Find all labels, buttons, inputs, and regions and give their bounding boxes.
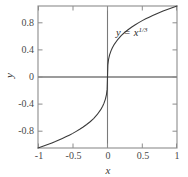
x-tick-label-2: 0	[99, 151, 117, 161]
x-tick-label-4: 1	[169, 151, 185, 161]
x-axis-title: x	[99, 165, 117, 176]
annotation-lhs: y	[116, 27, 121, 38]
annotation-exponent: 1/3	[139, 26, 148, 34]
x-tick-label-3: 0.5	[131, 151, 155, 161]
x-tick-label-0: -1	[30, 151, 48, 161]
y-axis-title: y	[4, 73, 15, 78]
x-tick-label-1: -0.5	[61, 151, 86, 161]
y-tick-label-3: -0.4	[11, 99, 34, 109]
annotation-operator: =	[123, 27, 131, 38]
y-tick-label-1: 0.4	[14, 45, 34, 55]
y-tick-label-2: 0	[14, 72, 34, 82]
y-tick-label-4: -0.8	[11, 126, 34, 136]
chart-figure: 0.8 0.4 0 -0.4 -0.8 -1 -0.5 0 0.5 1 y x …	[0, 0, 188, 177]
y-tick-label-0: 0.8	[14, 18, 34, 28]
curve-equation-annotation: y = x1/3	[116, 28, 147, 39]
